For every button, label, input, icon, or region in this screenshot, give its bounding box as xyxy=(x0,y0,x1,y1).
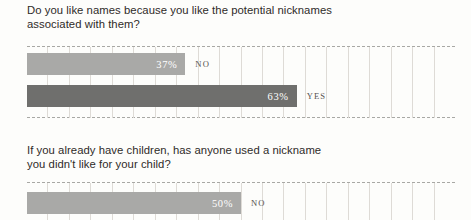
survey-infographic: Do you like names because you like the p… xyxy=(0,0,471,220)
chart-2-top-rule xyxy=(27,182,455,183)
chart-1-bar-yes: 63% xyxy=(27,85,297,107)
chart-1-bar-row-no: 37% NO xyxy=(27,53,455,75)
chart-2-bar-no: 50% xyxy=(27,192,241,214)
question-1-line-2: associated with them? xyxy=(27,17,427,31)
chart-2: 50% NO xyxy=(27,182,455,220)
question-1-text: Do you like names because you like the p… xyxy=(27,3,427,31)
chart-2-bar-no-label: NO xyxy=(251,192,266,214)
chart-1-bar-row-yes: 63% YES xyxy=(27,85,455,107)
chart-1: 37% NO 63% YES xyxy=(27,46,455,118)
chart-2-bar-no-value: 50% xyxy=(212,198,233,209)
chart-1-bottom-rule xyxy=(27,117,455,118)
question-2-line-2: you didn't like for your child? xyxy=(27,157,427,171)
question-2-text: If you already have children, has anyone… xyxy=(27,143,427,171)
chart-1-top-rule xyxy=(27,46,455,47)
chart-1-bar-yes-value: 63% xyxy=(268,91,289,102)
chart-1-bar-no-value: 37% xyxy=(156,59,177,70)
chart-2-bar-row-no: 50% NO xyxy=(27,192,455,214)
chart-1-bar-no-label: NO xyxy=(195,53,210,75)
chart-1-bar-no: 37% xyxy=(27,53,185,75)
chart-1-bar-yes-label: YES xyxy=(307,85,327,107)
question-2-line-1: If you already have children, has anyone… xyxy=(27,143,427,157)
question-1-line-1: Do you like names because you like the p… xyxy=(27,3,427,17)
